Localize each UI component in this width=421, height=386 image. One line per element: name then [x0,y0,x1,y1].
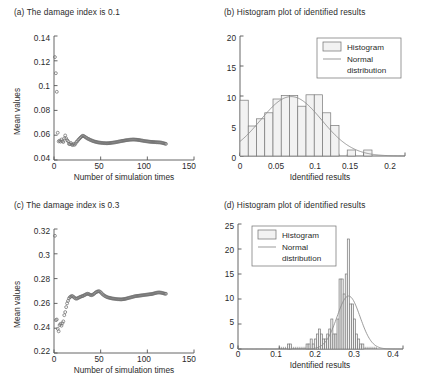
panel-d-xtick-2: 0.2 [305,349,325,359]
panel-b-ytick-1: 5 [214,123,236,133]
data-point-marker [56,131,59,134]
panel-b: (b) Histogram plot of identified results… [210,0,421,193]
panel-d-title: (d) Histogram plot of identified results [224,200,365,210]
panel-d-xtick-3: 0.3 [344,349,364,359]
data-point-marker [55,90,58,93]
panel-d: (d) Histogram plot of identified results… [210,193,421,386]
panel-d-xtick-4: 0.4 [383,349,403,359]
panel-a-ytick-2: 0.08 [16,105,50,115]
panel-a-title: (a) The damage index is 0.1 [14,7,120,17]
panel-b-xtick-1: 0.05 [264,161,288,171]
panel-c-xlabel: Number of simulation times [24,365,224,375]
legend-label-normal-line2: distribution [282,254,321,263]
data-point-marker [64,311,67,314]
scatter-series [53,234,167,332]
histogram-bar [257,119,265,156]
histogram-bar [281,95,289,156]
panel-c-ytick-4: 0.3 [16,250,50,260]
panel-c-xtick-1: 50 [90,354,108,364]
histogram-bar [265,113,273,156]
panel-d-plot: HistogramNormaldistribution [238,224,403,349]
panel-d-ytick-2: 10 [212,293,234,303]
panel-a-xlabel: Number of simulation times [24,172,224,182]
panel-b-ytick-3: 15 [214,63,236,73]
legend-label-histogram: Histogram [347,43,384,52]
panel-a-plot [54,36,194,160]
data-point-marker [65,306,68,309]
data-point-marker [54,72,57,75]
panel-d-xtick-0: 0 [229,349,247,359]
histogram-bar [314,95,322,156]
panel-b-xtick-0: 0 [231,161,249,171]
panel-b-xtick-4: 0.2 [380,161,400,171]
panel-a-ytick-4: 0.12 [16,57,50,67]
panel-b-xlabel: Identified results [230,172,410,182]
legend-label-normal-line2: distribution [347,66,386,75]
legend-label-normal-line1: Normal [282,243,308,252]
panel-a-ytick-3: 0.1 [16,81,50,91]
panel-d-xlabel: Identified results [230,360,410,370]
panel-a-ytick-5: 0.14 [16,33,50,43]
histogram-bar [290,95,298,156]
chart-legend: HistogramNormaldistribution [252,226,336,266]
histogram-bar [248,126,256,156]
panel-c-title: (c) The damage index is 0.3 [14,200,119,210]
panel-d-ytick-5: 25 [212,221,234,231]
panel-a: (a) The damage index is 0.1 Mean values … [0,0,210,193]
histogram-bars [240,95,372,156]
panel-a-xtick-0: 0 [45,161,63,171]
legend-label-normal-line1: Normal [347,55,373,64]
panel-b-ytick-4: 20 [214,33,236,43]
histogram-bar [273,99,281,156]
panel-b-ytick-2: 10 [214,93,236,103]
panel-d-ytick-3: 15 [212,269,234,279]
panel-a-xtick-3: 150 [180,161,198,171]
panel-c-xtick-2: 100 [135,354,153,364]
panel-c: (c) The damage index is 0.3 Mean values … [0,193,210,386]
panel-c-ytick-1: 0.24 [16,322,50,332]
panel-b-title: (b) Histogram plot of identified results [224,7,365,17]
histogram-bar [347,150,355,156]
panel-a-ytick-1: 0.06 [16,129,50,139]
figure-root: (a) The damage index is 0.1 Mean values … [0,0,421,386]
histogram-bar [323,113,331,156]
panel-c-xtick-0: 0 [45,354,63,364]
panel-b-xtick-2: 0.1 [305,161,325,171]
panel-d-ytick-1: 5 [212,317,234,327]
panel-b-xtick-3: 0.15 [338,161,362,171]
histogram-bar [298,106,306,156]
legend-swatch-histogram [323,42,341,51]
panel-c-ytick-3: 0.28 [16,274,50,284]
data-point-marker [63,314,66,317]
panel-b-plot: HistogramNormaldistribution [240,36,405,156]
data-point-marker [64,134,67,137]
panel-a-xtick-1: 50 [90,161,108,171]
legend-swatch-histogram [258,230,276,239]
panel-a-xtick-2: 100 [135,161,153,171]
panel-d-xtick-1: 0.1 [266,349,286,359]
panel-c-ytick-5: 0.32 [16,226,50,236]
panel-d-ytick-4: 20 [212,245,234,255]
histogram-bar [290,344,292,349]
histogram-bar [240,100,248,156]
legend-label-histogram: Histogram [282,231,319,240]
panel-c-plot [54,229,194,353]
panel-c-ytick-2: 0.26 [16,298,50,308]
scatter-series [53,56,167,147]
histogram-bar [331,125,339,156]
panel-c-xtick-3: 150 [180,354,198,364]
chart-legend: HistogramNormaldistribution [317,38,401,78]
